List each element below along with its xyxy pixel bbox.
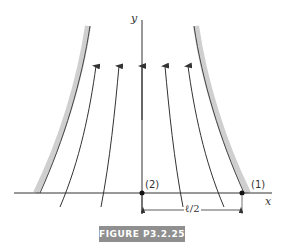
point-2-dot	[140, 191, 145, 196]
point-2-label: (2)	[145, 179, 159, 190]
dimension-label: ℓ/2	[184, 203, 201, 214]
flow-diagram	[0, 0, 283, 249]
point-1-dot	[240, 191, 245, 196]
right-wall	[194, 26, 248, 193]
y-axis-label: y	[131, 12, 137, 25]
figure-caption: FIGURE P3.2.25	[99, 226, 185, 242]
streamline	[101, 66, 119, 207]
point-1-label: (1)	[251, 179, 265, 190]
streamline	[165, 66, 183, 207]
left-wall	[36, 26, 90, 193]
x-axis-label: x	[265, 195, 271, 208]
